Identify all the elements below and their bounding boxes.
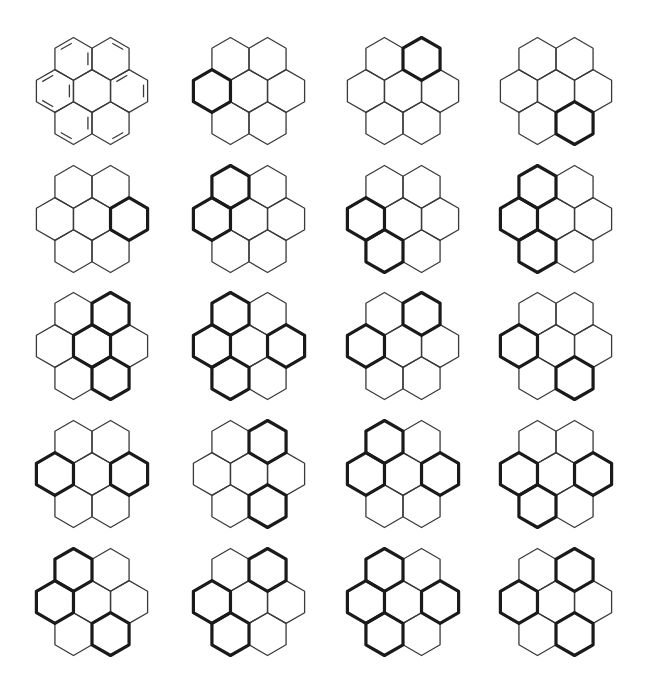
sextet-ring-left (193, 70, 230, 113)
ring-bottom-right (249, 102, 286, 145)
sextet-ring-bottom-left (366, 230, 403, 273)
structure-s6 (193, 166, 304, 273)
ring-top-left (366, 38, 403, 81)
sextet-ring-left (500, 581, 537, 624)
ring-right (268, 70, 305, 113)
structure-s10 (193, 293, 304, 400)
ring-top-left (519, 38, 556, 81)
ring-bottom-left (55, 102, 92, 145)
ring-left (36, 198, 73, 241)
sextet-ring-bottom-right (556, 613, 593, 656)
ring-top-right (556, 166, 593, 209)
sextet-ring-left (500, 325, 537, 368)
sextet-ring-bottom-left (212, 613, 249, 656)
structure-s7 (347, 166, 458, 273)
ring-top-right (92, 549, 129, 592)
structure-s2 (193, 38, 304, 145)
ring-right (422, 198, 459, 241)
sextet-ring-right (422, 453, 459, 496)
sextet-ring-bottom-left (519, 485, 556, 528)
structure-s14 (193, 421, 304, 528)
structure-s13 (36, 421, 147, 528)
structure-s3 (347, 38, 458, 145)
sextet-ring-bottom-left (519, 230, 556, 273)
ring-bottom-right (556, 230, 593, 273)
sextet-ring-left (347, 453, 384, 496)
sextet-ring-top-right (403, 38, 440, 81)
ring-left (36, 325, 73, 368)
structure-s16 (500, 421, 611, 528)
sextet-ring-right (422, 581, 459, 624)
ring-bottom-right (249, 230, 286, 273)
sextet-ring-bottom-right (92, 357, 129, 400)
sextet-ring-bottom-right (556, 357, 593, 400)
sextet-ring-right (268, 325, 305, 368)
ring-top-right (556, 38, 593, 81)
sextet-ring-bottom-left (366, 613, 403, 656)
sextet-ring-left (36, 581, 73, 624)
ring-bottom-left (519, 102, 556, 145)
ring-top-right (92, 38, 129, 81)
ring-top-right (556, 293, 593, 336)
ring-bottom-right (403, 102, 440, 145)
sextet-ring-bottom-right (556, 102, 593, 145)
structure-s18 (193, 549, 304, 656)
sextet-ring-top-right (403, 293, 440, 336)
sextet-ring-bottom-right (249, 485, 286, 528)
structure-s5 (36, 166, 147, 273)
structure-s12 (500, 293, 611, 400)
ring-top-left (212, 421, 249, 464)
coronene-structures-diagram (0, 0, 646, 688)
sextet-ring-left (347, 325, 384, 368)
ring-top-left (55, 38, 92, 81)
structure-s17 (36, 549, 147, 656)
ring-bottom-right (403, 230, 440, 273)
ring-left (347, 70, 384, 113)
ring-bottom-left (212, 485, 249, 528)
structure-s20 (500, 549, 611, 656)
ring-top-right (403, 166, 440, 209)
sextet-ring-bottom-right (92, 613, 129, 656)
ring-top-right (249, 38, 286, 81)
structure-s8 (500, 166, 611, 273)
ring-bottom-left (55, 230, 92, 273)
ring-bottom-right (92, 102, 129, 145)
structure-s19 (347, 549, 458, 656)
structure-s11 (347, 293, 458, 400)
ring-top-left (55, 166, 92, 209)
ring-right (111, 70, 148, 113)
ring-center (73, 70, 110, 113)
ring-center (230, 70, 267, 113)
sextet-ring-right (111, 453, 148, 496)
ring-center (73, 198, 110, 241)
ring-left (193, 453, 230, 496)
ring-right (268, 198, 305, 241)
sextet-ring-bottom-left (212, 357, 249, 400)
ring-right (575, 198, 612, 241)
ring-left (500, 70, 537, 113)
sextet-ring-left (36, 453, 73, 496)
ring-left (36, 70, 73, 113)
ring-center (73, 453, 110, 496)
structure-s15 (347, 421, 458, 528)
structure-s4 (500, 38, 611, 145)
structure-s9 (36, 293, 147, 400)
sextet-ring-top-right (249, 421, 286, 464)
ring-bottom-left (366, 102, 403, 145)
ring-bottom-right (403, 357, 440, 400)
sextet-ring-right (575, 453, 612, 496)
sextet-ring-right (111, 198, 148, 241)
ring-top-right (249, 166, 286, 209)
sextet-ring-top-right (249, 549, 286, 592)
sextet-ring-top-right (556, 549, 593, 592)
sextet-ring-left (193, 198, 230, 241)
ring-bottom-right (249, 613, 286, 656)
structure-kekule (36, 38, 147, 145)
